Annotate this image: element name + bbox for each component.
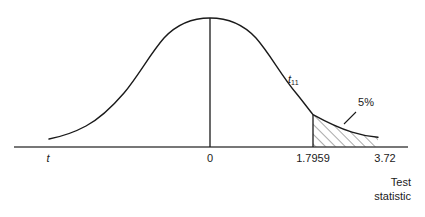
t-distribution-figure: t11 5% t 0 1.7959 3.72 Test statistic <box>0 0 425 217</box>
tick-label-critical-value: 1.7959 <box>296 152 330 165</box>
curve-label-subscript: 11 <box>291 79 299 86</box>
curve-label: t11 <box>288 73 299 86</box>
t-distribution-curve <box>49 18 378 139</box>
area-percent-label: 5% <box>358 96 374 109</box>
axis-caption-line-1: Test <box>374 176 411 190</box>
callout-leader-line <box>344 112 356 124</box>
tick-label-variable: t <box>46 152 49 165</box>
tick-label-test-statistic: 3.72 <box>374 152 395 165</box>
tick-label-mean: 0 <box>207 152 213 165</box>
axis-caption: Test statistic <box>374 176 411 204</box>
axis-caption-line-2: statistic <box>374 190 411 204</box>
